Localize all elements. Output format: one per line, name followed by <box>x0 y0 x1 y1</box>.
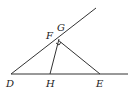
label-g: G <box>57 22 65 33</box>
label-d: D <box>5 78 14 89</box>
segment-ef <box>58 40 100 74</box>
label-h: H <box>45 78 55 89</box>
ray-dg <box>11 8 96 74</box>
label-e: E <box>95 78 104 89</box>
label-f: F <box>45 30 54 41</box>
geometry-diagram: D H E F G <box>0 0 138 100</box>
